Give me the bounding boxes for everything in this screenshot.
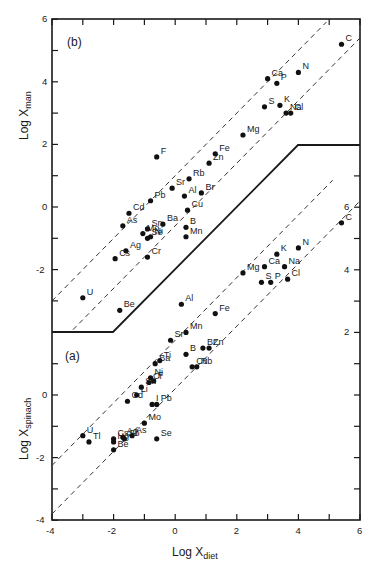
y-tick-label-spinach: -2 bbox=[36, 452, 44, 463]
data-point-k: K bbox=[277, 94, 290, 108]
svg-text:N: N bbox=[302, 61, 309, 71]
x-tick-label: 0 bbox=[172, 525, 177, 536]
svg-text:Ag: Ag bbox=[130, 240, 141, 250]
y-axis-label-spinach: Log Xspinach bbox=[17, 398, 33, 460]
svg-text:Se: Se bbox=[161, 428, 172, 438]
x-tick-label: 4 bbox=[295, 525, 300, 536]
svg-text:I: I bbox=[156, 393, 159, 403]
data-point-c: C bbox=[339, 33, 353, 47]
svg-text:Mn: Mn bbox=[190, 226, 203, 236]
svg-text:Cd: Cd bbox=[133, 202, 145, 212]
svg-text:N: N bbox=[302, 237, 309, 247]
svg-text:Be: Be bbox=[124, 299, 135, 309]
svg-text:Cl: Cl bbox=[295, 102, 304, 112]
data-point-ba: Ba bbox=[153, 353, 171, 367]
data-point-pb: Pb bbox=[148, 190, 166, 204]
data-points: CNCaPSKNaClMgFFeZnSrRbAlBrPbCdCuAsSnBaBN… bbox=[80, 33, 352, 452]
x-axis-label: Log Xdiet bbox=[172, 545, 218, 561]
scatter-chart: -4-202466420-20-2-4642 CNCaPSKNaClMgFFeZ… bbox=[0, 0, 378, 570]
data-point-as: As bbox=[120, 215, 138, 229]
svg-text:Fe: Fe bbox=[219, 303, 230, 313]
svg-text:Pb: Pb bbox=[161, 393, 172, 403]
svg-text:Na: Na bbox=[289, 256, 301, 266]
data-point-cu: Cu bbox=[185, 199, 203, 213]
svg-text:Br: Br bbox=[205, 182, 214, 192]
y-tick-label-right: 2 bbox=[344, 326, 349, 337]
data-point-al: Al bbox=[179, 293, 194, 307]
data-point-sr: Sr bbox=[170, 177, 186, 191]
data-point-mg: Mg bbox=[240, 124, 259, 138]
data-point-mn: Mn bbox=[183, 321, 202, 335]
y-tick-label-man: 2 bbox=[42, 138, 47, 149]
data-point-mg: Mg bbox=[240, 262, 259, 276]
svg-text:B: B bbox=[190, 343, 196, 353]
svg-text:Sr: Sr bbox=[175, 329, 184, 339]
data-point-c: C bbox=[339, 212, 353, 226]
data-point-rb: Rb bbox=[186, 168, 204, 182]
data-point-cd: Cd bbox=[125, 390, 143, 404]
svg-text:P: P bbox=[275, 271, 281, 281]
svg-text:Log Xman: Log Xman bbox=[17, 91, 33, 140]
x-tick-label: 2 bbox=[234, 525, 239, 536]
x-tick-label: -4 bbox=[46, 525, 54, 536]
x-tick-label: -2 bbox=[108, 525, 116, 536]
svg-text:Rb: Rb bbox=[193, 168, 205, 178]
svg-text:Al: Al bbox=[188, 185, 196, 195]
data-point-n: N bbox=[296, 237, 309, 251]
svg-text:Zn: Zn bbox=[213, 337, 224, 347]
svg-text:Mo: Mo bbox=[148, 412, 161, 422]
svg-text:C: C bbox=[346, 212, 353, 222]
data-point-b: B bbox=[183, 343, 196, 357]
axis-ticks: -4-202466420-20-2-4642 bbox=[36, 13, 362, 536]
data-point-u: U bbox=[80, 425, 93, 439]
svg-text:Mg: Mg bbox=[247, 262, 260, 272]
y-tick-label-spinach: -4 bbox=[36, 514, 44, 525]
y-tick-label-man: 0 bbox=[42, 201, 47, 212]
svg-text:F: F bbox=[161, 146, 167, 156]
svg-text:Sb: Sb bbox=[128, 428, 139, 438]
data-point-s: S bbox=[262, 96, 275, 110]
data-point-ca: Ca bbox=[262, 256, 280, 270]
svg-text:Se: Se bbox=[151, 227, 162, 237]
svg-text:Cl: Cl bbox=[292, 268, 301, 278]
svg-text:Ba: Ba bbox=[159, 353, 170, 363]
svg-text:Cu: Cu bbox=[196, 356, 208, 366]
panel-label-a: (a) bbox=[65, 349, 80, 363]
data-point-be: Be bbox=[117, 299, 135, 313]
data-point-cr: Cr bbox=[145, 246, 161, 260]
svg-text:S: S bbox=[269, 96, 275, 106]
data-point-se: Se bbox=[154, 428, 172, 442]
svg-text:Sr: Sr bbox=[176, 177, 185, 187]
svg-text:Log Xspinach: Log Xspinach bbox=[17, 398, 33, 460]
data-point-sr: Sr bbox=[168, 329, 184, 343]
data-point-zn: Zn bbox=[206, 152, 223, 166]
y-tick-label-right: 6 bbox=[344, 201, 349, 212]
svg-text:Cs: Cs bbox=[119, 248, 130, 258]
svg-text:C: C bbox=[346, 33, 353, 43]
svg-text:Be: Be bbox=[118, 439, 129, 449]
svg-text:As: As bbox=[127, 215, 138, 225]
svg-text:Tl: Tl bbox=[93, 431, 101, 441]
data-point-f: F bbox=[154, 146, 167, 160]
plot-frame bbox=[52, 19, 360, 520]
svg-text:Mg: Mg bbox=[247, 124, 260, 134]
data-point-cs: Cs bbox=[113, 248, 131, 262]
svg-text:Al: Al bbox=[185, 293, 193, 303]
panel-label-b: (b) bbox=[67, 35, 82, 49]
y-tick-label-man: 6 bbox=[42, 13, 47, 24]
y-tick-label-man: -2 bbox=[36, 264, 44, 275]
svg-text:Cr: Cr bbox=[151, 246, 161, 256]
svg-text:Mn: Mn bbox=[190, 321, 203, 331]
svg-text:Pb: Pb bbox=[155, 190, 166, 200]
data-point-u: U bbox=[80, 287, 93, 301]
svg-text:K: K bbox=[281, 243, 287, 253]
svg-text:K: K bbox=[284, 94, 290, 104]
svg-text:Cu: Cu bbox=[192, 199, 204, 209]
svg-text:Ba: Ba bbox=[167, 213, 178, 223]
svg-text:Zn: Zn bbox=[213, 152, 224, 162]
y-tick-label-man: 4 bbox=[42, 76, 47, 87]
x-tick-label: 6 bbox=[357, 525, 362, 536]
svg-text:Ca: Ca bbox=[269, 256, 281, 266]
svg-text:Cd: Cd bbox=[131, 390, 143, 400]
svg-text:P: P bbox=[281, 72, 287, 82]
